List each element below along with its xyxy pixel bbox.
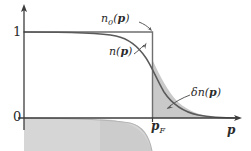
n-paren-close: ) [128,45,132,58]
n-argument: p [120,45,128,58]
difference-region-label: δn(p) [191,87,221,98]
n0-leader-line [139,22,150,29]
step-function-label: n0(p) [101,13,129,27]
dn-symbol: n [198,86,205,99]
n0-paren-close: ) [125,12,129,25]
fermi-momentum-label: pF [151,120,165,135]
distribution-curve-label: n(p) [109,46,132,57]
y-axis-tick-zero: 0 [13,110,21,123]
dn-paren-close: ) [217,86,221,99]
x-axis-label: p [227,124,235,136]
dn-argument: p [209,86,217,99]
delta-symbol: δ [191,86,198,99]
pf-subscript: F [159,126,165,135]
y-axis-tick-one: 1 [13,25,21,38]
fermi-distribution-figure: 1 0 n0(p) n(p) δn(p) pF p [0,0,251,151]
